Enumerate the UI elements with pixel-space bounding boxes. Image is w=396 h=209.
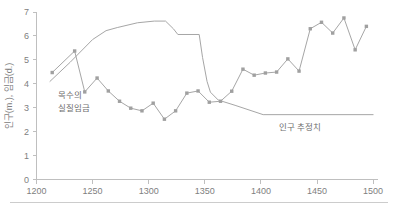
data-point-marker [365, 25, 368, 28]
data-point-marker [51, 71, 54, 74]
x-tick-label-1300: 1300 [139, 186, 159, 196]
data-point-marker [264, 71, 267, 74]
x-tick-label-1200: 1200 [26, 186, 46, 196]
x-tick-label-1400: 1400 [251, 186, 271, 196]
data-point-marker [309, 27, 312, 30]
data-point-marker [275, 70, 278, 73]
annotation-wage-line1: 목수의 [58, 90, 82, 100]
x-tick-label-1450: 1450 [307, 186, 327, 196]
data-point-marker [107, 89, 110, 92]
x-tick-label-1500: 1500 [363, 186, 383, 196]
data-point-marker [286, 57, 289, 60]
data-point-marker [140, 109, 143, 112]
data-point-marker [208, 101, 211, 104]
data-point-marker [320, 21, 323, 24]
y-tick-label-4: 4 [24, 79, 29, 89]
data-point-marker [174, 109, 177, 112]
footer-divider [10, 202, 388, 203]
line-chart: 0 1 2 3 4 5 6 7 1200 1250 1300 1350 1400… [0, 0, 396, 209]
y-tick-label-5: 5 [24, 55, 29, 65]
annotation-population: 인구 추정치 [279, 122, 321, 132]
x-tick-label-1250: 1250 [83, 186, 103, 196]
data-point-marker [185, 91, 188, 94]
y-tick-label-6: 6 [24, 31, 29, 41]
y-tick-label-7: 7 [24, 7, 29, 17]
data-point-marker [83, 90, 86, 93]
y-tick-label-3: 3 [24, 103, 29, 113]
data-point-marker [129, 106, 132, 109]
data-point-marker [196, 89, 199, 92]
data-point-marker [331, 31, 334, 34]
data-point-marker [342, 16, 345, 19]
y-tick-label-1: 1 [24, 151, 29, 161]
data-point-marker [73, 49, 76, 52]
data-point-marker [241, 67, 244, 70]
y-tick-label-2: 2 [24, 127, 29, 137]
y-tick-label-0: 0 [24, 175, 29, 185]
annotation-wage-line2: 실질임금 [58, 103, 90, 113]
data-point-marker [118, 100, 121, 103]
data-point-marker [95, 76, 98, 79]
data-point-marker [219, 100, 222, 103]
data-point-marker [297, 69, 300, 72]
data-point-marker [230, 90, 233, 93]
chart-figure: 0 1 2 3 4 5 6 7 1200 1250 1300 1350 1400… [0, 0, 396, 209]
data-point-marker [163, 118, 166, 121]
y-axis-title: 인구(m.), 임금(d.) [3, 63, 14, 130]
data-point-marker [151, 101, 154, 104]
data-point-marker [353, 48, 356, 51]
x-tick-label-1350: 1350 [195, 186, 215, 196]
data-point-marker [252, 73, 255, 76]
